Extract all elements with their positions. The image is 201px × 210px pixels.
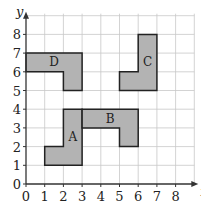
x-tick-label: 5 [115, 189, 123, 204]
y-tick-label: 7 [13, 46, 21, 61]
shape-label-b: B [106, 112, 115, 126]
x-tick-label: 4 [97, 189, 105, 204]
x-axis-label: x [200, 184, 201, 199]
shape-label-a: A [67, 130, 77, 144]
y-tick-label: 8 [13, 27, 21, 42]
x-tick-label: 7 [153, 189, 161, 204]
x-tick-label: 1 [41, 189, 49, 204]
y-axis-label: y [15, 4, 24, 19]
shape-label-c: C [143, 55, 152, 69]
x-tick-label: 6 [134, 189, 142, 204]
x-tick-label: 0 [22, 189, 30, 204]
y-axis-arrow-icon [23, 12, 29, 19]
y-tick-label: 2 [13, 140, 21, 155]
shapes-layer: ABCD [26, 34, 157, 165]
x-axis-arrow-icon [191, 181, 198, 187]
y-tick-label: 0 [13, 177, 21, 192]
y-tick-label: 1 [13, 158, 21, 173]
y-tick-label: 3 [13, 121, 21, 136]
y-tick-label: 5 [13, 84, 21, 99]
x-tick-label: 2 [59, 189, 67, 204]
y-tick-label: 6 [13, 65, 21, 80]
coordinate-grid-diagram: ABCD xy 012345678012345678 [0, 0, 201, 210]
shape-label-d: D [49, 55, 59, 69]
x-tick-label: 8 [171, 189, 179, 204]
x-tick-label: 3 [78, 189, 86, 204]
y-tick-label: 4 [13, 102, 21, 117]
axes: xy [15, 4, 201, 199]
